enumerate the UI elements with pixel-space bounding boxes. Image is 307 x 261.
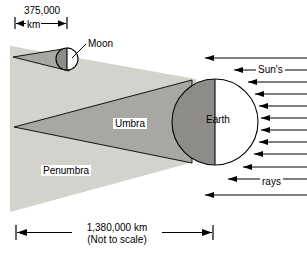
sun-ray-arrowhead (243, 164, 252, 170)
sun-ray-arrowhead (254, 151, 263, 157)
sun-ray-arrowhead (234, 67, 243, 73)
umbra-label: Umbra (113, 118, 147, 129)
earth-label: Earth (206, 114, 230, 125)
sun-ray-arrowhead (261, 115, 270, 121)
dimension-top-value: 375,000 (14, 5, 70, 16)
rays-label: rays (260, 176, 283, 187)
dimension-bottom-note: (Not to scale) (72, 234, 162, 245)
sun-ray-arrowhead (228, 176, 237, 182)
suns-label: Sun's (256, 64, 285, 75)
sun-ray-arrowhead (205, 55, 214, 61)
sun-ray-arrowhead (205, 192, 214, 198)
dim-bottom-arrowhead-left (17, 229, 27, 236)
dim-bottom-arrowhead-right (202, 229, 212, 236)
sun-ray-arrowhead (259, 103, 268, 109)
sun-ray-arrowhead (255, 91, 264, 97)
eclipse-diagram: 375,000 km Moon Sun's Earth Umbra Penumb… (0, 0, 307, 261)
dimension-top-unit: km (26, 19, 41, 30)
dimension-bottom-value: 1,380,000 km (72, 222, 162, 233)
sun-ray-arrowhead (259, 139, 268, 145)
dim-top-arrowhead-left (16, 20, 24, 26)
dim-top-arrowhead-right (58, 20, 66, 26)
moon-label: Moon (88, 38, 113, 49)
sun-ray-arrowhead (261, 127, 270, 133)
sun-ray-arrowhead (248, 79, 257, 85)
penumbra-label: Penumbra (41, 165, 91, 176)
